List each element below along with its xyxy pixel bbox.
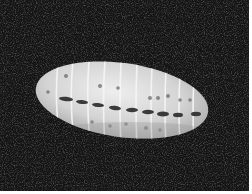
larva-photo bbox=[0, 0, 249, 191]
photo-frame bbox=[0, 0, 249, 191]
